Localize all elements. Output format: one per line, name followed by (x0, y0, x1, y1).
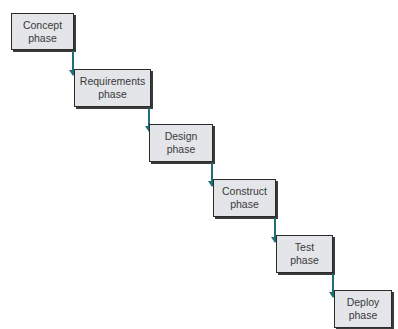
phase-label: Design (165, 130, 198, 143)
phase-label: Requirements (80, 75, 145, 88)
phase-sublabel: phase (23, 32, 62, 45)
phase-sublabel: phase (165, 143, 198, 156)
phase-label: Test (290, 241, 319, 254)
phase-sublabel: phase (347, 309, 380, 322)
phase-sublabel: phase (290, 254, 319, 267)
phase-sublabel: phase (80, 88, 145, 101)
phase-sublabel: phase (222, 198, 267, 211)
phase-box-deploy: Deployphase (334, 290, 392, 328)
phase-label: Deploy (347, 296, 380, 309)
phase-box-test: Testphase (276, 235, 333, 273)
phase-box-construct: Constructphase (213, 179, 276, 217)
phase-box-concept: Conceptphase (11, 13, 74, 50)
phase-label: Concept (23, 19, 62, 32)
phase-box-design: Designphase (149, 124, 213, 162)
phase-label: Construct (222, 185, 267, 198)
phase-box-requirements: Requirementsphase (74, 69, 151, 107)
